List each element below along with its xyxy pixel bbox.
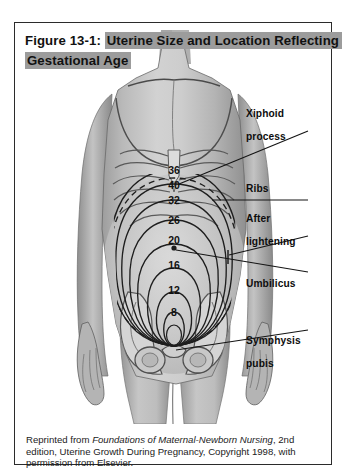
label-after-lightening: After lightening: [246, 201, 296, 259]
week-label-36: 36: [168, 164, 180, 176]
label-lightening-line1: After: [246, 213, 296, 225]
label-umbilicus: Umbilicus: [246, 266, 296, 301]
label-umbilicus-line1: Umbilicus: [246, 278, 296, 290]
label-ribs-line1: Ribs: [246, 183, 268, 195]
week-number-labels: 36 40 32 26 20 16 12 8: [168, 164, 180, 318]
week-label-8: 8: [171, 306, 177, 318]
week-label-20: 20: [168, 234, 180, 246]
caption-part-1: Reprinted from: [26, 434, 92, 445]
week-label-32: 32: [168, 194, 180, 206]
figure-title-line-1: Uterine Size and Location Reflecting: [105, 32, 342, 49]
label-xiphoid-line1: Xiphoid: [246, 108, 286, 120]
week-label-26: 26: [168, 214, 180, 226]
label-symphysis-line1: Symphysis: [246, 335, 301, 347]
figure-caption: Reprinted from Foundations of Maternal-N…: [26, 434, 314, 469]
label-symphysis-pubis: Symphysis pubis: [246, 323, 301, 381]
label-xiphoid-line2: process: [246, 131, 286, 143]
figure-title-line-2: Gestational Age: [25, 52, 131, 69]
label-lightening-line2: lightening: [246, 236, 296, 248]
figure-page: 36 40 32 26 20 16 12 8 Figure 13-1: Uter…: [0, 0, 359, 474]
label-xiphoid-process: Xiphoid process: [246, 96, 286, 154]
symphysis-pubis-bone: [162, 346, 186, 358]
figure-number: Figure 13-1:: [25, 33, 101, 48]
figure-title: Figure 13-1: Uterine Size and Location R…: [25, 31, 315, 71]
week-label-40: 40: [168, 179, 180, 191]
caption-source-title: Foundations of Maternal-Newborn Nursing: [92, 434, 273, 445]
label-symphysis-line2: pubis: [246, 358, 301, 370]
week-label-16: 16: [168, 259, 180, 271]
week-label-12: 12: [168, 284, 180, 296]
umbilicus-marker: [171, 245, 176, 250]
